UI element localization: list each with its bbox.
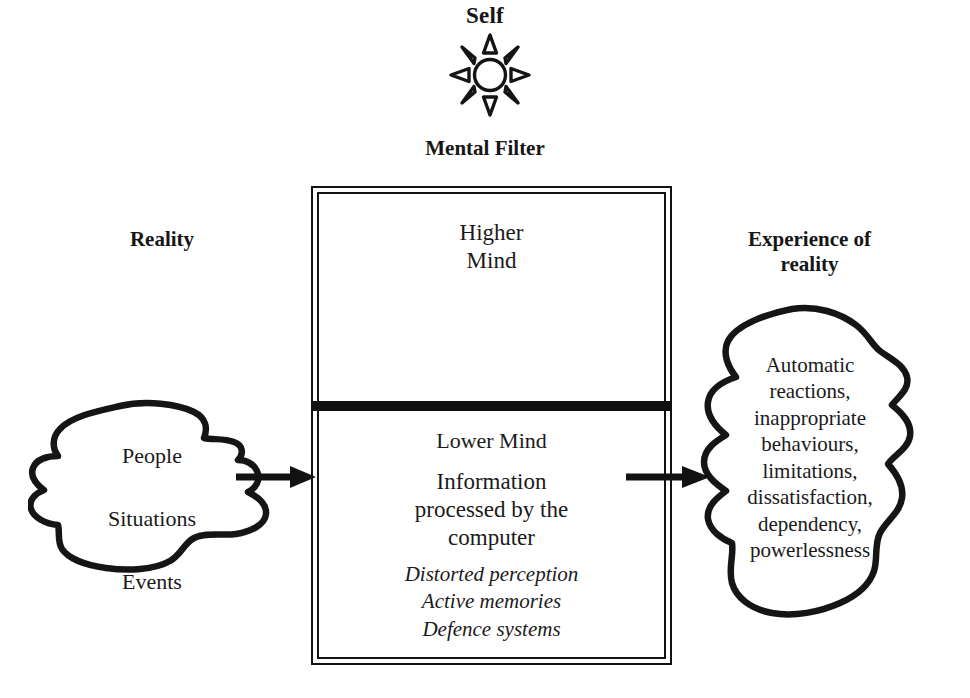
mental-filter-heading: Mental Filter <box>0 136 970 161</box>
self-heading: Self <box>0 2 970 29</box>
higher-mind-label: Higher Mind <box>321 219 662 275</box>
reality-blob-items: People Situations Events <box>62 423 242 615</box>
mind-divider-bar <box>311 401 672 411</box>
arrow-filter-to-experience-icon <box>626 462 710 492</box>
diagram-canvas: Self Mental Filter Higher Mind Lower Min… <box>0 0 970 698</box>
experience-of-reality-heading: Experience of reality <box>702 227 917 277</box>
reality-item-situations: Situations <box>62 508 242 530</box>
reality-item-events: Events <box>62 571 242 593</box>
lower-mind-label: Lower Mind <box>321 428 662 455</box>
lower-mind-italic-items: Distorted perception Active memories Def… <box>321 561 662 643</box>
arrow-reality-to-filter-icon <box>236 462 316 492</box>
reality-item-people: People <box>62 445 242 467</box>
reality-heading: Reality <box>62 227 262 252</box>
lower-mind-body-text: Information processed by the computer <box>331 468 652 552</box>
experience-blob-text: Automatic reactions, inappropriate behav… <box>710 352 910 564</box>
sun-icon <box>449 33 531 117</box>
